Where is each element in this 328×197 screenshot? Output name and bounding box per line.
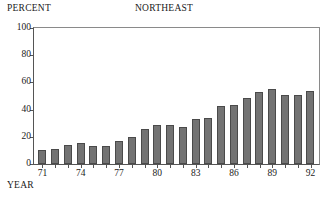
x-axis-tick [247, 164, 248, 168]
bar-slot [279, 28, 292, 164]
bar[interactable] [204, 118, 212, 164]
x-axis-tick [285, 164, 286, 168]
bar[interactable] [115, 141, 123, 164]
x-axis-tick [93, 164, 94, 168]
x-axis-tick-label: 77 [114, 168, 124, 179]
bar-series [34, 28, 319, 164]
bar-slot [240, 28, 253, 164]
chart-figure: PERCENT NORTHEAST 0204060801007174778083… [0, 0, 328, 197]
bar-slot [74, 28, 87, 164]
bar-slot [138, 28, 151, 164]
bar[interactable] [128, 137, 136, 164]
bar-slot [266, 28, 279, 164]
bar[interactable] [281, 95, 289, 164]
bar-slot [227, 28, 240, 164]
x-axis-tick [106, 164, 107, 168]
x-axis-tick [170, 164, 171, 168]
bar-slot [125, 28, 138, 164]
y-axis-tick-label: 80 [22, 49, 32, 60]
x-axis-tick [68, 164, 69, 168]
bar[interactable] [89, 146, 97, 164]
chart-title: NORTHEAST [0, 3, 328, 13]
bar-slot [291, 28, 304, 164]
x-axis-label: YEAR [7, 180, 34, 190]
bar-slot [151, 28, 164, 164]
bar-slot [49, 28, 62, 164]
x-axis-tick [221, 164, 222, 168]
y-axis-tick-label: 0 [26, 158, 31, 169]
x-axis-tick [208, 164, 209, 168]
x-axis-tick [183, 164, 184, 168]
bar[interactable] [102, 146, 110, 164]
bar-slot [253, 28, 266, 164]
bar[interactable] [255, 92, 263, 164]
bar-slot [189, 28, 202, 164]
bar[interactable] [64, 145, 72, 164]
bar[interactable] [230, 105, 238, 164]
y-axis-tick-label: 20 [22, 131, 32, 142]
bar-slot [113, 28, 126, 164]
bar[interactable] [268, 89, 276, 164]
plot-area: 0204060801007174778083868992 [33, 27, 320, 165]
bar-slot [215, 28, 228, 164]
bar-slot [87, 28, 100, 164]
bar[interactable] [141, 129, 149, 164]
bar-slot [176, 28, 189, 164]
bar[interactable] [166, 125, 174, 164]
x-axis-tick-label: 71 [38, 168, 48, 179]
bar[interactable] [153, 125, 161, 164]
y-axis-tick-label: 40 [22, 104, 32, 115]
x-axis-tick [145, 164, 146, 168]
y-axis-tick-label: 100 [17, 22, 31, 33]
bar-slot [100, 28, 113, 164]
bar-slot [164, 28, 177, 164]
x-axis-tick-label: 86 [229, 168, 239, 179]
bar-slot [304, 28, 317, 164]
x-axis-tick [55, 164, 56, 168]
x-axis-tick-label: 89 [268, 168, 278, 179]
bar-slot [62, 28, 75, 164]
bar-slot [202, 28, 215, 164]
y-axis-tick-label: 60 [22, 76, 32, 87]
bar[interactable] [217, 106, 225, 164]
bar[interactable] [51, 149, 59, 164]
x-axis-tick-label: 74 [76, 168, 86, 179]
bar[interactable] [306, 91, 314, 164]
bar[interactable] [294, 95, 302, 164]
bar[interactable] [192, 119, 200, 164]
x-axis-tick-label: 80 [153, 168, 163, 179]
bar[interactable] [38, 150, 46, 164]
bar-slot [36, 28, 49, 164]
x-axis-tick [132, 164, 133, 168]
x-axis-tick-label: 92 [306, 168, 316, 179]
bar[interactable] [77, 143, 85, 164]
x-axis-tick-label: 83 [191, 168, 201, 179]
x-axis-tick [260, 164, 261, 168]
bar[interactable] [179, 127, 187, 164]
bar[interactable] [243, 98, 251, 164]
x-axis-tick [298, 164, 299, 168]
